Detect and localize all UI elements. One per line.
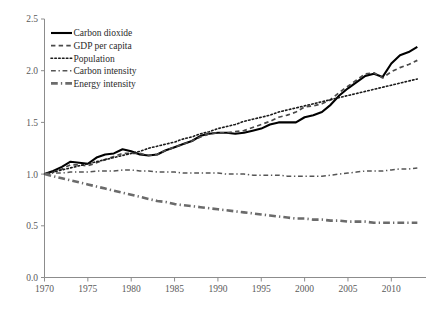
x-axis-tick-label: 1970: [35, 284, 54, 294]
legend-label-carbon-dioxide: Carbon dioxide: [74, 28, 133, 38]
y-axis-tick-label: 1.5: [26, 118, 38, 128]
x-axis-tick-label: 2010: [382, 284, 401, 294]
line-chart: 0.00.51.01.52.02.51970197519801985199019…: [0, 0, 441, 312]
series-line-carbon-intensity: [45, 168, 418, 176]
legend-label-gdp-per-capita: GDP per capita: [74, 41, 133, 51]
x-axis-tick-label: 1985: [165, 284, 184, 294]
x-axis-tick-label: 1980: [122, 284, 141, 294]
y-axis-tick-label: 2.0: [26, 66, 38, 76]
legend-label-energy-intensity: Energy intensity: [74, 79, 137, 89]
y-axis-tick-label: 1.0: [26, 170, 38, 180]
x-axis-tick-label: 1995: [252, 284, 271, 294]
series-line-population: [45, 79, 418, 174]
legend-label-carbon-intensity: Carbon intensity: [74, 66, 137, 76]
x-axis-tick-label: 2000: [295, 284, 314, 294]
y-axis-tick-label: 2.5: [26, 14, 38, 24]
y-axis-tick-label: 0.5: [26, 221, 38, 231]
x-axis-tick-label: 2005: [338, 284, 357, 294]
y-axis-tick-label: 0.0: [26, 273, 38, 283]
series-line-energy-intensity: [45, 174, 418, 223]
x-axis-tick-label: 1975: [78, 284, 97, 294]
x-axis-tick-label: 1990: [208, 284, 227, 294]
legend-label-population: Population: [74, 54, 115, 64]
chart-figure: 0.00.51.01.52.02.51970197519801985199019…: [0, 0, 441, 312]
